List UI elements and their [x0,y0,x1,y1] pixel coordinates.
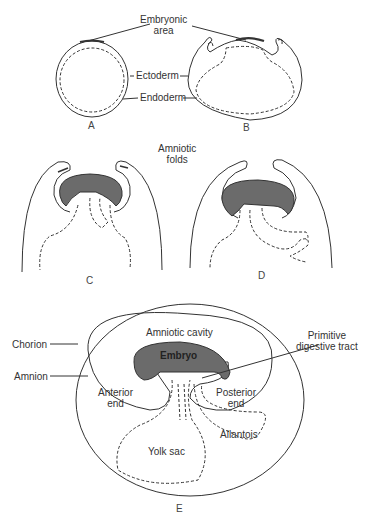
panel-b-drawing [180,26,302,120]
label-ectoderm: Ectoderm [136,70,179,81]
label-amniotic-folds: Amniotic folds [158,143,196,165]
panel-label-b: B [243,122,250,133]
label-allantois: Allantois [220,429,258,440]
label-line: Embryonic [140,14,187,25]
panel-c-drawing [22,161,162,272]
label-yolk-sac: Yolk sac [148,446,185,457]
label-line: Primitive [296,330,358,341]
panel-label-a: A [88,120,95,131]
label-line: Posterior [216,387,256,398]
embryo-development-diagram [0,0,379,516]
label-line: Anterior [98,387,133,398]
label-embryo: Embryo [160,350,197,361]
label-line: Amniotic [158,143,196,154]
panel-label-e: E [176,503,183,514]
label-line: folds [158,154,196,165]
label-amniotic-cavity: Amniotic cavity [146,327,213,338]
panel-label-c: C [86,275,93,286]
label-endoderm: Endoderm [140,92,186,103]
label-line: digestive tract [296,341,358,352]
label-anterior-end: Anterior end [98,387,133,409]
label-amnion: Amnion [14,371,48,382]
label-chorion: Chorion [12,339,47,350]
label-line: end [216,398,256,409]
label-posterior-end: Posterior end [216,387,256,409]
label-embryonic-area: Embryonic area [140,14,187,36]
panel-d-drawing [190,160,332,268]
panel-label-d: D [258,270,265,281]
label-line: end [98,398,133,409]
label-primitive-digestive-tract: Primitive digestive tract [296,330,358,352]
label-line: area [140,25,187,36]
